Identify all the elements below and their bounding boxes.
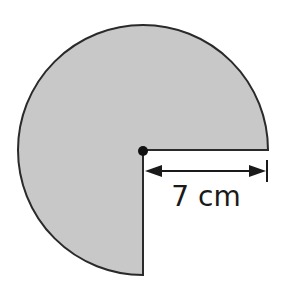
diagram-canvas: 7 cm: [0, 0, 282, 291]
center-dot-icon: [138, 146, 148, 156]
radius-label: 7 cm: [171, 180, 240, 213]
radius-dimension-arrow: [145, 160, 267, 182]
